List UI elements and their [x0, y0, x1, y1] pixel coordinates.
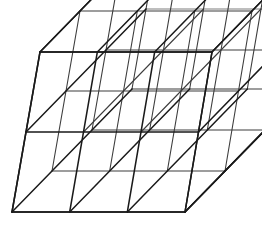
wireframe-svg [0, 0, 262, 228]
wireframe-figure [0, 0, 262, 228]
